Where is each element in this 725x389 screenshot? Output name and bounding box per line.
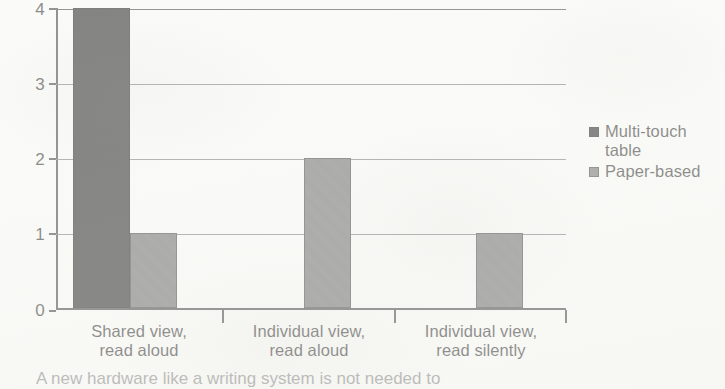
legend-swatch-icon-paper-based bbox=[589, 167, 599, 177]
category-label-individual-view-read-silently: Individual view, read silently bbox=[396, 322, 566, 360]
category-label-line-1: Individual view, bbox=[396, 322, 566, 341]
x-axis-line bbox=[56, 308, 566, 310]
legend-label-line-2: table bbox=[605, 141, 641, 159]
y-tick-label-2: 2 bbox=[35, 151, 45, 168]
legend-label-paper-based: Paper-based bbox=[605, 162, 701, 181]
y-tick-label-1: 1 bbox=[35, 226, 45, 243]
category-label-line-1: Individual view, bbox=[224, 322, 394, 341]
bar-paper-based-individual-view-read-aloud bbox=[304, 158, 351, 308]
y-tick-mark-4 bbox=[49, 8, 56, 10]
category-label-line-2: read aloud bbox=[224, 341, 394, 360]
grouped-bar-chart: 4 3 2 1 0 Shared view, read aloud bbox=[0, 0, 725, 389]
category-label-line-1: Shared view, bbox=[56, 322, 222, 341]
chart-legend: Multi-touch table Paper-based bbox=[589, 122, 725, 183]
plot-area: 4 3 2 1 0 bbox=[56, 8, 566, 310]
clipped-caption: A new hardware like a writing system is … bbox=[36, 371, 696, 389]
bar-multi-touch-table-shared-view-read-aloud bbox=[73, 8, 130, 308]
y-tick-mark-3 bbox=[49, 83, 56, 85]
y-tick-mark-2 bbox=[49, 158, 56, 160]
y-tick-mark-1 bbox=[49, 233, 56, 235]
gridline-3: 3 bbox=[56, 84, 566, 85]
category-label-line-2: read aloud bbox=[56, 341, 222, 360]
y-tick-label-3: 3 bbox=[35, 76, 45, 93]
category-label-line-2: read silently bbox=[396, 341, 566, 360]
gridline-4: 4 bbox=[56, 9, 566, 10]
bar-paper-based-individual-view-read-silently bbox=[476, 233, 523, 308]
y-tick-label-4: 4 bbox=[35, 1, 45, 18]
y-tick-mark-0 bbox=[49, 310, 56, 312]
category-label-shared-view-read-aloud: Shared view, read aloud bbox=[56, 322, 222, 360]
bar-paper-based-shared-view-read-aloud bbox=[130, 233, 177, 308]
legend-label-multi-touch-table: Multi-touch table bbox=[605, 122, 687, 160]
y-tick-label-0: 0 bbox=[35, 302, 45, 319]
legend-label-line-1: Multi-touch bbox=[605, 122, 687, 140]
clipped-caption-text: A new hardware like a writing system is … bbox=[36, 371, 696, 388]
legend-swatch-icon-multi-touch-table bbox=[589, 127, 599, 137]
category-label-individual-view-read-aloud: Individual view, read aloud bbox=[224, 322, 394, 360]
legend-item-paper-based: Paper-based bbox=[589, 162, 725, 181]
legend-item-multi-touch-table: Multi-touch table bbox=[589, 122, 725, 160]
